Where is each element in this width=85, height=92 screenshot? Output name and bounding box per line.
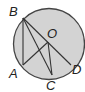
point-label-c: C	[46, 78, 56, 92]
point-label-b: B	[9, 4, 18, 19]
point-label-o: O	[47, 26, 57, 41]
point-label-a: A	[8, 66, 18, 81]
circle-geometry-diagram: BACDO	[0, 0, 85, 92]
point-label-d: D	[72, 62, 81, 77]
